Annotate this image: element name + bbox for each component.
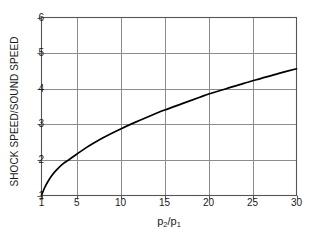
grid-lines: [42, 18, 297, 196]
y-tick-label: 2: [38, 155, 44, 165]
x-axis-title: p2/p1: [157, 215, 181, 227]
x-tick-label: 30: [291, 198, 302, 208]
x-tick-label: 25: [247, 198, 258, 208]
y-tick-label: 1: [38, 191, 44, 201]
x-tick-label: 5: [74, 198, 80, 208]
x-axis-title-subscript: 1: [177, 220, 181, 229]
y-axis-title: SHOCK SPEED/SOUND SPEED: [9, 19, 20, 205]
plot-frame: [42, 18, 297, 196]
y-tick-label: 5: [38, 48, 44, 58]
plot-canvas: [0, 0, 315, 241]
y-tick-label: 6: [38, 13, 44, 23]
x-tick-label: 15: [159, 198, 170, 208]
x-tick-label: 20: [203, 198, 214, 208]
y-tick-label: 4: [38, 84, 44, 94]
data-curve-shock-speed: [42, 69, 297, 196]
x-tick-label: 10: [115, 198, 126, 208]
chart-figure: 151015202530 123456 p2/p1 SHOCK SPEED/SO…: [0, 0, 315, 241]
x-axis-title-subscript: 2: [163, 220, 167, 229]
y-tick-label: 3: [38, 119, 44, 129]
